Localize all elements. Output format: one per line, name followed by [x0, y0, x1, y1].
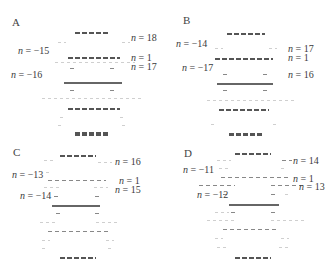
layer-line [120, 117, 126, 118]
layer-line-equator [52, 205, 100, 207]
layer-label-left: n = −16 [11, 70, 42, 80]
layer-line [55, 62, 135, 63]
layer-line [223, 74, 229, 75]
layer-line [68, 108, 120, 110]
panel-letter: A [12, 16, 20, 28]
layer-line [42, 240, 50, 241]
layer-line [281, 168, 287, 169]
layer-line [219, 109, 269, 111]
layer-line [269, 48, 277, 49]
layer-line [40, 222, 58, 223]
layer-line [75, 32, 110, 34]
layer-line [56, 213, 62, 214]
layer-line [282, 160, 292, 161]
layer-label-left: n = −17 [182, 63, 213, 73]
layer-line [207, 100, 297, 101]
layer-line [68, 57, 120, 59]
layer-line [94, 187, 108, 188]
layer-line [223, 90, 229, 91]
layer-line [281, 238, 289, 239]
layer-line [211, 124, 217, 125]
layer-label-right: n = 13 [299, 182, 325, 192]
layer-line-equator [229, 204, 279, 206]
layer-line [271, 212, 277, 213]
layer-line [263, 74, 269, 75]
layer-line [235, 153, 271, 155]
layer-line [207, 220, 237, 221]
layer-line [279, 247, 289, 248]
panel-letter: B [183, 14, 190, 26]
layer-label-left: n = −14 [20, 191, 51, 201]
layer-line [235, 257, 271, 259]
layer-line [199, 185, 235, 186]
layer-label-left: n = −14 [176, 39, 207, 49]
layer-line [42, 248, 48, 249]
layer-line [58, 125, 64, 126]
layer-label-right: n = 18 [131, 33, 157, 43]
layer-line [217, 247, 227, 248]
layer-label-right: n = 15 [115, 185, 141, 195]
panel-a: A n = −15 n = −16 n = 18 n = 1 n = 17 [0, 0, 167, 134]
layer-label-right: n = 1 [288, 53, 309, 63]
layer-line [46, 172, 52, 173]
layer-line [122, 42, 130, 43]
layer-label-right: n = 17 [131, 62, 157, 72]
layer-line [263, 90, 269, 91]
panel-b: B n = −14 n = −17 n = 17 n = 1 n = 16 [167, 0, 334, 134]
layer-line [229, 134, 264, 136]
layer-line [219, 168, 229, 169]
layer-line [221, 177, 291, 178]
layer-line [215, 238, 223, 239]
layer-line [110, 68, 116, 69]
layer-label-left: n = −13 [12, 170, 43, 180]
layer-label-left: n = −15 [18, 46, 49, 56]
layer-line [273, 124, 279, 125]
layer-line [70, 68, 76, 69]
layer-line [106, 240, 114, 241]
layer-line [108, 248, 114, 249]
layer-line [271, 220, 307, 221]
layer-line [48, 180, 106, 181]
layer-line [110, 90, 116, 91]
layer-line [75, 134, 110, 136]
layer-line [271, 194, 277, 195]
layer-line [54, 196, 60, 197]
layer-label-right: n = 16 [288, 70, 314, 80]
layer-line [60, 155, 96, 157]
layer-line [215, 48, 223, 49]
layer-label-right: n = 16 [115, 157, 141, 167]
panel-letter: D [184, 147, 192, 159]
layer-line [48, 231, 108, 232]
layer-line [60, 257, 96, 259]
layer-line [70, 90, 76, 91]
layer-line [98, 162, 112, 163]
panel-letter: C [13, 146, 20, 158]
layer-line [60, 117, 66, 118]
layer-line [42, 98, 142, 99]
layer-line [44, 160, 54, 161]
layer-line [122, 125, 128, 126]
layer-line [215, 58, 273, 60]
layer-line [96, 222, 120, 223]
layer-label-left: n = −12 [197, 190, 228, 200]
layer-line [227, 33, 265, 35]
layer-line [58, 42, 66, 43]
layer-line [95, 213, 101, 214]
panel-d: D n = −11 n = −12 n = 14 n = 1 n = 13 [167, 134, 334, 268]
layer-line-equator [64, 82, 122, 84]
layer-line [95, 196, 101, 197]
layer-line [215, 212, 229, 213]
panel-c: C n = −13 n = −14 n = 16 n = 1 n = 15 [0, 134, 167, 268]
layer-line [285, 194, 291, 195]
layer-line [44, 187, 60, 188]
layer-line-equator [217, 83, 273, 85]
layer-line [231, 212, 237, 213]
layer-label-left: n = −11 [183, 165, 214, 175]
layer-label-right: n = 14 [293, 156, 319, 166]
layer-line [223, 229, 279, 230]
layer-line [217, 160, 231, 161]
